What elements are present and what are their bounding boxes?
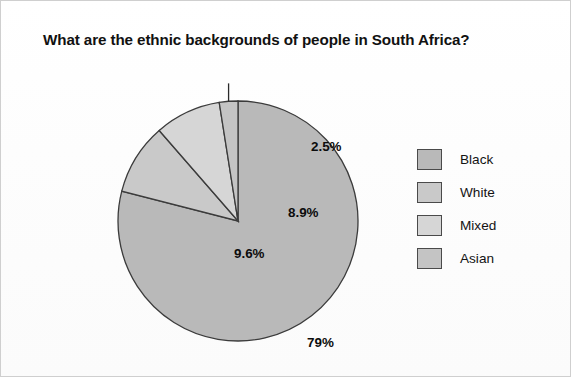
legend-swatch-asian — [417, 248, 442, 269]
legend-label-white: White — [460, 185, 495, 200]
legend-item-asian[interactable]: Asian — [417, 242, 547, 275]
legend-item-white[interactable]: White — [417, 176, 547, 209]
legend-swatch-mixed — [417, 215, 442, 236]
page-title: What are the ethnic backgrounds of peopl… — [43, 31, 513, 48]
pie-chart-svg — [108, 70, 378, 360]
pie-slices — [118, 101, 358, 341]
legend-swatch-white — [417, 182, 442, 203]
slice-label-asian: 2.5% — [311, 139, 342, 154]
slice-label-mixed: 8.9% — [288, 205, 319, 220]
legend-swatch-black — [417, 149, 442, 170]
pie-chart: 79% 9.6% 8.9% 2.5% — [108, 70, 378, 360]
legend-item-black[interactable]: Black — [417, 143, 547, 176]
legend: Black White Mixed Asian — [417, 143, 547, 275]
legend-item-mixed[interactable]: Mixed — [417, 209, 547, 242]
slice-label-black: 79% — [307, 335, 334, 350]
legend-label-mixed: Mixed — [460, 218, 496, 233]
chart-page: What are the ethnic backgrounds of peopl… — [0, 0, 571, 377]
legend-label-asian: Asian — [460, 251, 494, 266]
legend-label-black: Black — [460, 152, 493, 167]
slice-label-white: 9.6% — [234, 246, 265, 261]
